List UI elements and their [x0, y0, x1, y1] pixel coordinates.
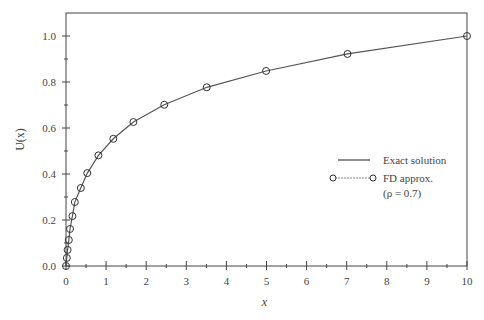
x-tick-label: 7 [344, 275, 350, 287]
y-tick-label: 0.8 [42, 76, 56, 88]
chart: 0123456789100.00.20.40.60.81.0xU(x)Exact… [0, 0, 484, 320]
plot-area: 0123456789100.00.20.40.60.81.0xU(x)Exact… [0, 0, 484, 320]
legend-fd-param: (ρ = 0.7) [383, 187, 422, 200]
x-tick-label: 8 [384, 275, 390, 287]
x-tick-label: 10 [462, 275, 474, 287]
legend-fd-label: FD approx. [383, 172, 433, 184]
y-tick-label: 0.4 [42, 168, 56, 180]
x-tick-label: 9 [424, 275, 430, 287]
x-tick-label: 2 [143, 275, 149, 287]
y-tick-label: 1.0 [42, 30, 56, 42]
exact-solution-curve [66, 36, 467, 266]
y-tick-label: 0.0 [42, 260, 56, 272]
y-tick-label: 0.6 [42, 122, 56, 134]
x-tick-label: 1 [103, 275, 109, 287]
plot-frame [66, 13, 467, 266]
x-tick-label: 6 [304, 275, 310, 287]
x-tick-label: 4 [224, 275, 230, 287]
legend-exact-label: Exact solution [383, 154, 447, 166]
legend-fd-marker [330, 175, 336, 181]
x-axis-label: x [261, 295, 268, 309]
y-tick-label: 0.2 [42, 214, 56, 226]
x-tick-label: 3 [184, 275, 190, 287]
legend-fd-marker [370, 175, 376, 181]
x-tick-label: 5 [264, 275, 270, 287]
y-axis-label: U(x) [13, 128, 27, 151]
x-tick-label: 0 [63, 275, 69, 287]
